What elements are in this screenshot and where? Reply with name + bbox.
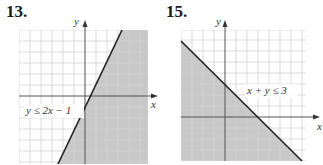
y-axis-label-15: y <box>215 15 221 27</box>
y-axis-label-13: y <box>73 15 79 27</box>
x-axis-arrow-15 <box>313 115 320 120</box>
y-axis-arrow-13 <box>83 20 88 27</box>
shaded-region-13 <box>58 30 148 164</box>
inequality-label-15: x + y ≤ 3 <box>246 84 287 96</box>
graphs-canvas: x y y ≤ 2x − 1 <box>0 0 323 165</box>
x-axis-label-13: x <box>150 98 156 110</box>
graph-15: x y x + y ≤ 3 <box>181 15 322 161</box>
graph-13: x y y ≤ 2x − 1 <box>19 15 158 164</box>
x-axis-label-15: x <box>316 120 322 132</box>
inequality-label-13: y ≤ 2x − 1 <box>25 104 71 116</box>
y-axis-arrow-15 <box>223 20 228 27</box>
